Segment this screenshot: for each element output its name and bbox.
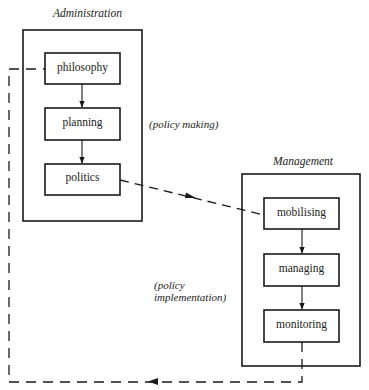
diagram-canvas	[0, 0, 369, 390]
node-label-managing: managing	[264, 262, 339, 274]
node-label-philosophy: philosophy	[45, 61, 120, 73]
edge-feedback-arrowhead	[148, 378, 158, 385]
administration-title: Administration	[53, 7, 122, 19]
node-label-mobilising: mobilising	[264, 206, 339, 218]
edge-politics-mobilising-arrowhead	[185, 193, 196, 199]
node-label-monitoring: monitoring	[264, 318, 339, 330]
management-title: Management	[273, 155, 333, 167]
node-label-politics: politics	[45, 171, 120, 183]
annotation-policy-making: (policy making)	[149, 119, 218, 130]
annotation-policy-implementation-line2: implementation)	[154, 292, 226, 303]
annotation-policy-implementation-line1: (policy	[154, 280, 185, 291]
node-label-planning: planning	[45, 116, 120, 128]
